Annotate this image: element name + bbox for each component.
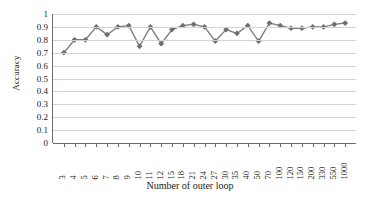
- x-tick-label: 70: [263, 171, 272, 180]
- x-tick-label: 35: [231, 171, 240, 180]
- x-tick-label: 5: [79, 175, 88, 179]
- y-tick-label: 0.8: [37, 35, 48, 44]
- y-tick-label: 0.5: [37, 74, 48, 83]
- gridline: [53, 79, 356, 80]
- y-tick-label: 0.3: [37, 100, 48, 109]
- x-tick-label: 12: [155, 171, 164, 180]
- x-tick-label: 11: [144, 171, 153, 179]
- y-tick-label: 0: [44, 139, 49, 148]
- data-point-marker: [137, 43, 143, 49]
- y-axis-title: Accuracy: [11, 55, 21, 90]
- x-tick-label: 120: [285, 166, 294, 179]
- x-tick-label: 15: [166, 171, 175, 180]
- gridline: [53, 117, 356, 118]
- accuracy-line-chart: Accuracy 00.10.20.30.40.50.60.70.80.91 3…: [0, 0, 380, 199]
- x-tick-label: 6: [90, 175, 99, 179]
- y-tick-label: 0.1: [37, 126, 48, 135]
- y-tick-label: 0.9: [37, 22, 48, 31]
- y-tick-label: 0.4: [37, 87, 48, 96]
- gridline: [53, 40, 356, 41]
- gridline: [53, 14, 356, 15]
- gridline: [53, 66, 356, 67]
- y-axis-tick-labels: 00.10.20.30.40.50.60.70.80.91: [24, 0, 50, 160]
- x-tick-label: 27: [209, 171, 218, 180]
- x-axis-tick-labels: 3456789101112151821242730354050701001201…: [52, 147, 355, 179]
- y-tick-label: 1: [44, 10, 49, 19]
- x-tick-label: 8: [112, 175, 121, 179]
- gridline: [53, 53, 356, 54]
- x-tick-label: 9: [123, 175, 132, 179]
- plot-area: [52, 14, 356, 143]
- x-tick-label: 40: [242, 171, 251, 180]
- x-tick-label: 550: [328, 166, 337, 179]
- y-tick-label: 0.2: [37, 113, 48, 122]
- data-point-marker: [342, 20, 348, 26]
- x-tick-label: 18: [177, 171, 186, 180]
- x-tick-label: 10: [134, 171, 143, 180]
- x-tick-label: 3: [58, 175, 67, 179]
- x-tick-label: 50: [253, 171, 262, 180]
- x-tick-label: 100: [274, 166, 283, 179]
- x-tick-label: 200: [307, 166, 316, 179]
- gridline: [53, 104, 356, 105]
- y-axis-title-wrap: Accuracy: [8, 0, 24, 145]
- x-tick-label: 330: [318, 166, 327, 179]
- gridline: [53, 130, 356, 131]
- x-tick-label: 150: [296, 166, 305, 179]
- y-tick-label: 0.7: [37, 48, 48, 57]
- x-tick-label: 1000: [339, 162, 348, 179]
- gridline: [53, 91, 356, 92]
- y-tick-label: 0.6: [37, 61, 48, 70]
- x-tick-label: 30: [220, 171, 229, 180]
- x-tick-label: 24: [199, 171, 208, 180]
- x-tick-label: 4: [69, 175, 78, 179]
- x-tick-label: 7: [101, 175, 110, 179]
- x-tick-label: 21: [188, 171, 197, 180]
- x-axis-title: Number of outer loop: [0, 180, 380, 191]
- gridline: [53, 27, 356, 28]
